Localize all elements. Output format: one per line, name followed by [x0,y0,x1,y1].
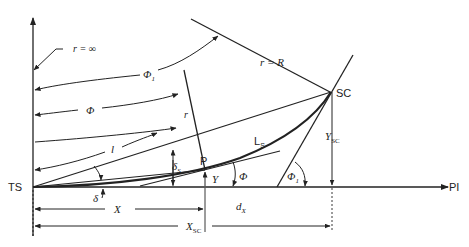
l-label: l [111,143,114,155]
x-label: X [113,203,122,215]
r-infinity-label: r = ∞ [73,43,96,54]
l-dimension-arc-right [122,133,157,147]
ysc-label: YSC [325,130,340,145]
delta-label: δ [93,192,99,204]
phi1-dimension-arc-right [158,36,218,70]
pi-label: PI [449,181,459,193]
y-label: Y [212,173,220,185]
p-label: P [200,155,207,167]
r-infinity-leader [34,49,63,70]
r-dimension-arc [35,128,176,142]
phi-dimension-arc-right [102,94,178,108]
angle-arc-ts [94,166,101,180]
phi-label: Φ [86,104,95,116]
phi-angle-arc [233,162,235,186]
phi1-dimension-arc [35,75,140,90]
tangent-at-sc [277,55,353,187]
tangent-at-p [140,151,280,186]
r-equals-R-label: r = R [260,56,284,68]
r-label: r [184,109,188,120]
delta-arrow [102,189,103,198]
ls-label: LS [254,135,265,149]
dx-label: dX [236,200,247,215]
sc-label: SC [336,87,351,99]
phi-dimension-arc [35,110,78,115]
spiral-curve-diagram: TS SC PI P r = ∞ r = R r Φ1 Φ l δS LS Y … [0,0,469,247]
ts-label: TS [8,181,22,193]
xsc-label: XSC [185,220,202,235]
phi1-label: Φ1 [143,68,155,83]
phi1-right-label: Φ1 [287,170,299,185]
phi-small-label: Φ [239,170,248,182]
